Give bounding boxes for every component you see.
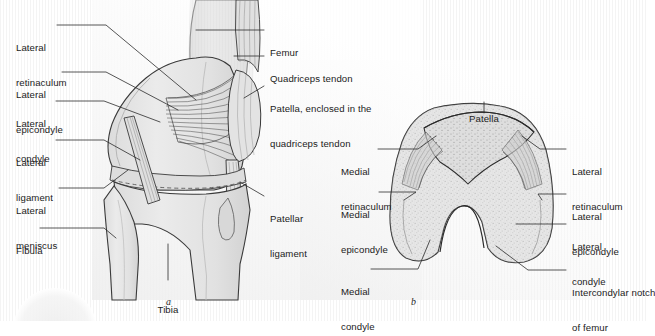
label-line-2: of femur (572, 322, 655, 334)
label-line-1: Lateral (16, 118, 50, 130)
panel-id-a: a (166, 296, 171, 307)
label-line-1: Lateral (16, 157, 53, 169)
label-line-1: Medial (341, 286, 375, 298)
label-line-1: Intercondylar notch (572, 287, 655, 299)
label-line-1: Medial (341, 166, 392, 178)
label-line-1: Lateral (572, 166, 623, 178)
label-medial-condyle: Medial condyle (341, 263, 375, 336)
label-patella-b: Patella (460, 90, 508, 148)
label-patellar-ligament: Patellar ligament (270, 190, 307, 283)
label-line-1: Medial (341, 209, 388, 221)
label-tibia: Tibia (148, 281, 188, 336)
panel-id-b: b (411, 296, 416, 307)
label-line-1: Patellar (270, 213, 307, 225)
label-line-2: epicondyle (341, 244, 388, 256)
label-line-1: Patella (460, 113, 508, 125)
label-line-1: Lateral (16, 205, 57, 217)
label-line-1: Lateral (572, 241, 606, 253)
label-line-1: Fibula (16, 245, 43, 257)
label-fibula: Fibula (16, 222, 43, 280)
label-line-2: condyle (341, 321, 375, 333)
label-line-2: ligament (270, 248, 307, 260)
label-line-1: Patella, enclosed in the (270, 103, 372, 115)
label-line-1: Lateral (16, 42, 67, 54)
label-intercondylar-notch: Intercondylar notch of femur (572, 264, 655, 336)
